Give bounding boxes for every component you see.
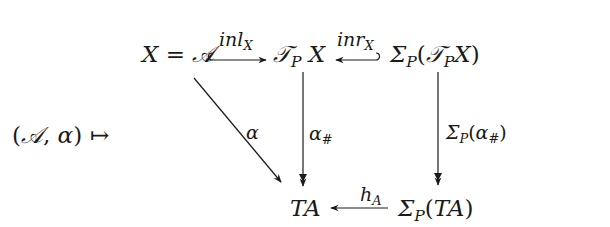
open-paren: ( <box>425 195 434 221</box>
label-inl: inlX <box>219 30 253 49</box>
node-x-equals-a: X = 𝒜 <box>142 43 214 66</box>
alpha-sharp-arrow <box>299 72 307 186</box>
close-paren: ) <box>464 195 473 221</box>
algebra-structure: α <box>58 122 74 148</box>
t-symbol: 𝒯 <box>426 41 444 67</box>
label-alpha: α <box>246 123 259 142</box>
inl-subscript: X <box>243 38 252 53</box>
inr-arrow <box>336 53 380 60</box>
p-subscript: P <box>444 52 455 71</box>
sharp-subscript: # <box>488 131 499 146</box>
label-sigma-alpha-sharp: ΣP(α#) <box>446 123 507 142</box>
sigma-symbol: Σ <box>446 121 459 143</box>
alpha-arrow <box>194 78 281 182</box>
a-subscript: A <box>372 193 381 208</box>
inr-subscript: X <box>364 38 373 53</box>
node-sigma-tp-x: ΣP(𝒯PX) <box>390 43 480 66</box>
node-sigma-ta: ΣP(TA) <box>398 197 473 220</box>
alpha-name: α <box>476 121 489 143</box>
mapsto-symbol: ↦ <box>90 124 109 147</box>
p-subscript: P <box>291 52 302 71</box>
sigma-alpha-sharp-arrow <box>434 72 442 185</box>
label-inr: inrX <box>337 30 374 49</box>
p-subscript: P <box>459 131 468 146</box>
x-symbol: X <box>454 41 470 67</box>
p-subscript: P <box>414 206 425 225</box>
a-symbol: 𝒜 <box>192 41 214 67</box>
close-paren: ) <box>471 41 480 67</box>
comma: , <box>43 122 58 148</box>
sigma-symbol: Σ <box>398 195 414 221</box>
t-symbol: 𝒯 <box>273 41 291 67</box>
close-paren: ) <box>499 121 506 143</box>
label-h-a: hA <box>360 185 382 204</box>
label-alpha-sharp: α# <box>309 124 333 143</box>
h-name: h <box>360 183 372 205</box>
x-symbol: X <box>142 41 158 67</box>
inr-name: inr <box>337 28 364 50</box>
ta-symbol: TA <box>434 195 465 221</box>
alpha-name: α <box>309 122 322 144</box>
arrows-layer <box>0 0 610 227</box>
inl-arrow <box>209 53 267 60</box>
open-paren: ( <box>468 121 475 143</box>
node-tp-x: 𝒯P X <box>273 43 325 66</box>
p-subscript: P <box>406 52 417 71</box>
sharp-subscript: # <box>322 132 333 147</box>
algebra-carrier: 𝒜 <box>21 122 43 148</box>
close-paren: ) <box>73 122 82 148</box>
algebra-pair: (𝒜, α) <box>12 124 82 147</box>
sigma-symbol: Σ <box>390 41 406 67</box>
x-symbol: X <box>302 41 326 67</box>
equals-symbol: = <box>158 41 192 67</box>
inl-name: inl <box>219 28 243 50</box>
open-paren: ( <box>12 122 21 148</box>
open-paren: ( <box>417 41 426 67</box>
node-ta: TA <box>290 197 321 220</box>
